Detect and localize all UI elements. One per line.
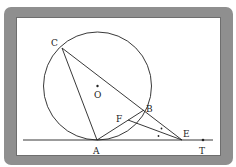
center-dot-o bbox=[96, 85, 98, 87]
segment-ce bbox=[62, 48, 182, 140]
label-a: A bbox=[92, 146, 100, 156]
segment-fe bbox=[128, 120, 182, 140]
label-o: O bbox=[94, 90, 101, 100]
label-b: B bbox=[146, 104, 153, 114]
label-f: F bbox=[116, 114, 122, 124]
angle-mark-dot-lower bbox=[158, 135, 160, 137]
label-t: T bbox=[199, 146, 205, 156]
label-e: E bbox=[183, 129, 190, 139]
geometry-diagram: C O B F A E T bbox=[0, 0, 236, 167]
label-c: C bbox=[51, 38, 58, 48]
angle-mark-dot-upper bbox=[161, 128, 163, 130]
point-t-dot bbox=[202, 139, 205, 142]
